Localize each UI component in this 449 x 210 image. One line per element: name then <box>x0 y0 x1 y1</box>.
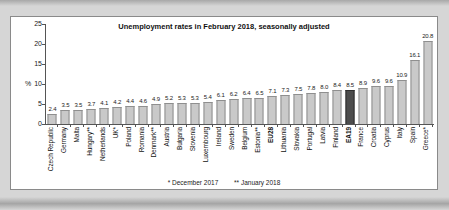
x-tick-label: Romania <box>136 127 148 179</box>
bar-column: 3.7 <box>85 24 98 124</box>
chart-panel: Unemployment rates in February 2018, sea… <box>10 16 438 190</box>
bar-column: 4.9 <box>150 24 163 124</box>
x-tick-label: EU28 <box>265 127 277 179</box>
x-label-cell: Lithuania <box>278 127 291 181</box>
bar-value-label: 4.6 <box>139 98 147 104</box>
bar <box>164 103 173 124</box>
bar-value-label: 3.5 <box>74 102 82 108</box>
x-label-cell: Denmark** <box>149 127 162 181</box>
bar-value-label: 7.1 <box>269 88 277 94</box>
bar <box>113 107 122 124</box>
bar-value-label: 5.3 <box>191 95 199 101</box>
bar-column: 4.1 <box>98 24 111 124</box>
bar-value-label: 20.8 <box>422 33 433 39</box>
x-tick-label: Germany <box>58 127 70 179</box>
bar <box>203 102 212 124</box>
x-label-cell: Poland <box>123 127 136 181</box>
bar <box>177 103 186 124</box>
bar-column: 9.6 <box>382 24 395 124</box>
x-label-cell: Austria <box>161 127 174 181</box>
x-tick-label: Bulgaria <box>174 127 186 179</box>
bar <box>320 92 329 124</box>
bar-value-label: 4.9 <box>152 96 160 102</box>
bar <box>333 90 342 124</box>
bar-value-label: 2.4 <box>49 106 57 112</box>
footnote-january: ** January 2018 <box>234 179 280 186</box>
bar-column: 4.6 <box>137 24 150 124</box>
bar-column: 6.4 <box>240 24 253 124</box>
x-label-cell: Luxembourg <box>200 127 213 181</box>
x-label-cell: Bulgaria <box>174 127 187 181</box>
bar-value-label: 16.1 <box>409 52 420 58</box>
chart-footnote: * December 2017 ** January 2018 <box>11 179 437 186</box>
bar-value-label: 4.4 <box>126 98 134 104</box>
bar-value-label: 10.9 <box>396 72 407 78</box>
x-tick-label: Denmark** <box>148 127 160 179</box>
bar <box>371 86 380 124</box>
bar-value-label: 6.4 <box>243 90 251 96</box>
x-tick-label: Austria <box>161 127 173 179</box>
bar-value-label: 6.1 <box>217 92 225 98</box>
x-tick-label: Greece* <box>420 127 432 179</box>
bar <box>139 106 148 124</box>
bar-column: 2.4 <box>46 24 59 124</box>
bar-column: 8.0 <box>318 24 331 124</box>
x-label-cell: France <box>356 127 369 181</box>
bar-column: 20.8 <box>421 24 434 124</box>
x-label-cell: Belgium <box>239 127 252 181</box>
bar-value-label: 6.2 <box>230 91 238 97</box>
x-label-cell: Hungary** <box>84 127 97 181</box>
bar <box>242 98 251 124</box>
bar <box>126 106 135 124</box>
x-tick-label: Poland <box>123 127 135 179</box>
x-tick-label: Malta <box>71 127 83 179</box>
x-tick-label: Croatia <box>368 127 380 179</box>
x-tick-label: Luxembourg <box>200 127 212 179</box>
bar-value-label: 8.9 <box>359 80 367 86</box>
bar-column: 5.2 <box>162 24 175 124</box>
bar-value-label: 4.1 <box>100 100 108 106</box>
x-tick-label: Hungary** <box>84 127 96 179</box>
bar-value-label: 9.6 <box>385 78 393 84</box>
screenshot-root: { "chart": { "title": "Unemployment rate… <box>0 0 449 204</box>
x-label-cell: Greece* <box>420 127 433 181</box>
x-label-cell: Slovenia <box>187 127 200 181</box>
bar <box>48 114 57 124</box>
y-tick-label: 10 <box>11 80 42 88</box>
bar-column: 9.6 <box>369 24 382 124</box>
x-label-cell: Ireland <box>213 127 226 181</box>
x-tick-label: Ireland <box>213 127 225 179</box>
x-tick-label: Czech Republic <box>45 127 57 179</box>
x-label-cell: Malta <box>71 127 84 181</box>
y-tick-label: 15 <box>11 60 42 68</box>
bar-column: 5.3 <box>188 24 201 124</box>
bar-column: 6.1 <box>214 24 227 124</box>
x-tick-label: Cyprus <box>381 127 393 179</box>
bar-value-label: 7.5 <box>294 86 302 92</box>
bar-value-label: 7.3 <box>281 87 289 93</box>
x-label-cell: Slovakia <box>291 127 304 181</box>
x-axis-labels: Czech RepublicGermanyMaltaHungary**Nethe… <box>45 127 433 181</box>
bar <box>281 95 290 124</box>
bar <box>410 60 419 124</box>
x-tick-label: Finland <box>330 127 342 179</box>
x-label-cell: Spain <box>407 127 420 181</box>
bar <box>190 103 199 124</box>
y-tick-label: 25 <box>11 20 42 28</box>
x-tick-label: UK* <box>110 127 122 179</box>
bar-column: 6.5 <box>253 24 266 124</box>
x-tick-label: Slovakia <box>291 127 303 179</box>
bar-column: 3.5 <box>59 24 72 124</box>
bar <box>255 98 264 124</box>
bar <box>307 93 316 124</box>
bar-column: 4.4 <box>124 24 137 124</box>
x-label-cell: EU28 <box>265 127 278 181</box>
footnote-december: * December 2017 <box>168 179 219 186</box>
bar-column: 4.2 <box>111 24 124 124</box>
bar-value-label: 8.0 <box>320 84 328 90</box>
bar-column: 3.5 <box>72 24 85 124</box>
bar-value-label: 3.5 <box>62 102 70 108</box>
y-tick-label: 0 <box>11 120 42 128</box>
x-label-cell: Cyprus <box>381 127 394 181</box>
y-tick-label: 5 <box>11 100 42 108</box>
